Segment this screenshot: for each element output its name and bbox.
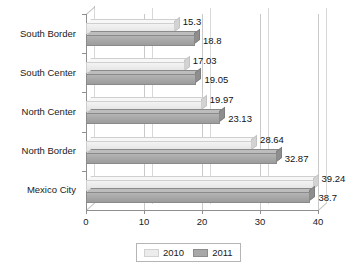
x-tick-0 — [86, 210, 87, 214]
category-label-1: South Center — [20, 68, 76, 78]
bar-south-border-2011[interactable] — [86, 35, 195, 46]
bar-front-face — [86, 153, 277, 164]
legend-label-2011: 2011 — [212, 248, 232, 258]
bar-front-face — [86, 113, 220, 124]
bar-chart: South BorderSouth CenterNorth CenterNort… — [0, 0, 361, 269]
bar-south-center-2011[interactable] — [86, 74, 196, 85]
bar-value-label-north-border-2010: 28.64 — [260, 135, 284, 145]
category-label-4: Mexico City — [27, 185, 76, 195]
category-label-3: North Border — [22, 146, 76, 156]
bar-value-label-north-border-2011: 32.87 — [285, 154, 309, 164]
bar-value-label-mexico-city-2011: 38.7 — [318, 193, 337, 203]
bar-value-label-south-center-2011: 19.05 — [204, 75, 228, 85]
x-tick-label-20: 20 — [197, 216, 208, 227]
x-tick-40 — [318, 210, 319, 214]
legend-item-2011[interactable]: 2011 — [193, 248, 232, 258]
chart-legend: 2010 2011 — [136, 243, 241, 262]
x-tick-label-0: 0 — [83, 216, 88, 227]
y-tick-1 — [82, 53, 86, 54]
legend-swatch-2010-icon — [144, 249, 159, 257]
x-tick-label-30: 30 — [255, 216, 266, 227]
legend-item-2010[interactable]: 2010 — [144, 248, 184, 258]
legend-swatch-2011-icon — [193, 249, 208, 257]
x-tick-label-40: 40 — [313, 216, 324, 227]
legend-label-2010: 2010 — [163, 248, 184, 258]
bar-value-label-north-center-2010: 19.97 — [210, 95, 234, 105]
category-axis-labels: South BorderSouth CenterNorth CenterNort… — [0, 14, 82, 210]
bar-front-face — [86, 192, 310, 203]
bar-north-center-2011[interactable] — [86, 113, 220, 124]
y-tick-3 — [82, 132, 86, 133]
x-tick-20 — [202, 210, 203, 214]
bar-front-face — [86, 74, 196, 85]
bar-north-border-2011[interactable] — [86, 153, 277, 164]
category-label-0: South Border — [20, 29, 76, 39]
y-tick-4 — [82, 171, 86, 172]
bar-value-label-south-border-2011: 18.8 — [203, 36, 222, 46]
x-tick-30 — [260, 210, 261, 214]
category-label-2: North Center — [22, 107, 76, 117]
bar-mexico-city-2011[interactable] — [86, 192, 310, 203]
bar-value-label-south-border-2010: 15.3 — [183, 17, 202, 27]
bar-front-face — [86, 35, 195, 46]
bar-value-label-mexico-city-2010: 39.24 — [322, 174, 346, 184]
y-tick-2 — [82, 92, 86, 93]
x-tick-label-10: 10 — [139, 216, 150, 227]
x-tick-10 — [144, 210, 145, 214]
bar-value-label-south-center-2010: 17.03 — [193, 56, 217, 66]
bar-value-label-north-center-2011: 23.13 — [228, 114, 252, 124]
y-tick-0 — [82, 14, 86, 15]
